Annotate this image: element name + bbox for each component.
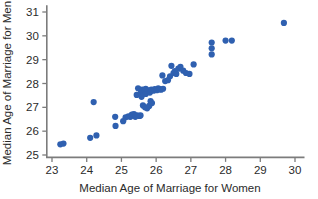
y-tick-label-27: 27 xyxy=(26,101,39,113)
x-tick-label-26: 26 xyxy=(150,164,163,176)
y-tick-label-30: 30 xyxy=(26,30,39,42)
data-point xyxy=(229,38,235,44)
data-point xyxy=(160,86,166,92)
data-point xyxy=(186,71,192,77)
y-axis-label: Median Age of Marriage for Men xyxy=(1,1,13,165)
x-tick-label-30: 30 xyxy=(289,164,302,176)
data-point xyxy=(91,99,97,105)
data-point xyxy=(138,94,144,100)
data-points xyxy=(57,20,287,148)
x-tick-label-24: 24 xyxy=(80,164,93,176)
scatter-plot-figure: 2324252627282930 25262728293031 Median A… xyxy=(0,0,318,199)
x-tick-label-25: 25 xyxy=(115,164,128,176)
x-tick-label-28: 28 xyxy=(219,164,232,176)
data-point xyxy=(87,135,93,141)
data-point xyxy=(191,61,197,67)
data-point xyxy=(209,45,215,51)
x-tick-label-23: 23 xyxy=(46,164,59,176)
x-axis-ticks: 2324252627282930 xyxy=(46,157,302,176)
plot-canvas: 2324252627282930 25262728293031 Median A… xyxy=(0,0,318,199)
axes xyxy=(47,6,304,157)
y-tick-label-29: 29 xyxy=(26,54,39,66)
data-point xyxy=(137,112,143,118)
data-point xyxy=(112,114,118,120)
y-tick-label-25: 25 xyxy=(26,149,39,161)
data-point xyxy=(168,63,174,69)
data-point xyxy=(281,20,287,26)
data-point xyxy=(209,51,215,57)
x-axis-label: Median Age of Marriage for Women xyxy=(79,182,260,194)
y-tick-label-31: 31 xyxy=(26,6,39,18)
data-point xyxy=(149,100,155,106)
data-point xyxy=(222,38,228,44)
data-point xyxy=(60,140,66,146)
data-point xyxy=(209,39,215,45)
data-point xyxy=(159,72,165,78)
data-point xyxy=(93,132,99,138)
y-tick-label-26: 26 xyxy=(26,125,39,137)
data-point xyxy=(112,123,118,129)
x-tick-label-27: 27 xyxy=(184,164,197,176)
x-tick-label-29: 29 xyxy=(254,164,267,176)
y-axis-ticks: 25262728293031 xyxy=(26,6,47,161)
y-tick-label-28: 28 xyxy=(26,78,39,90)
